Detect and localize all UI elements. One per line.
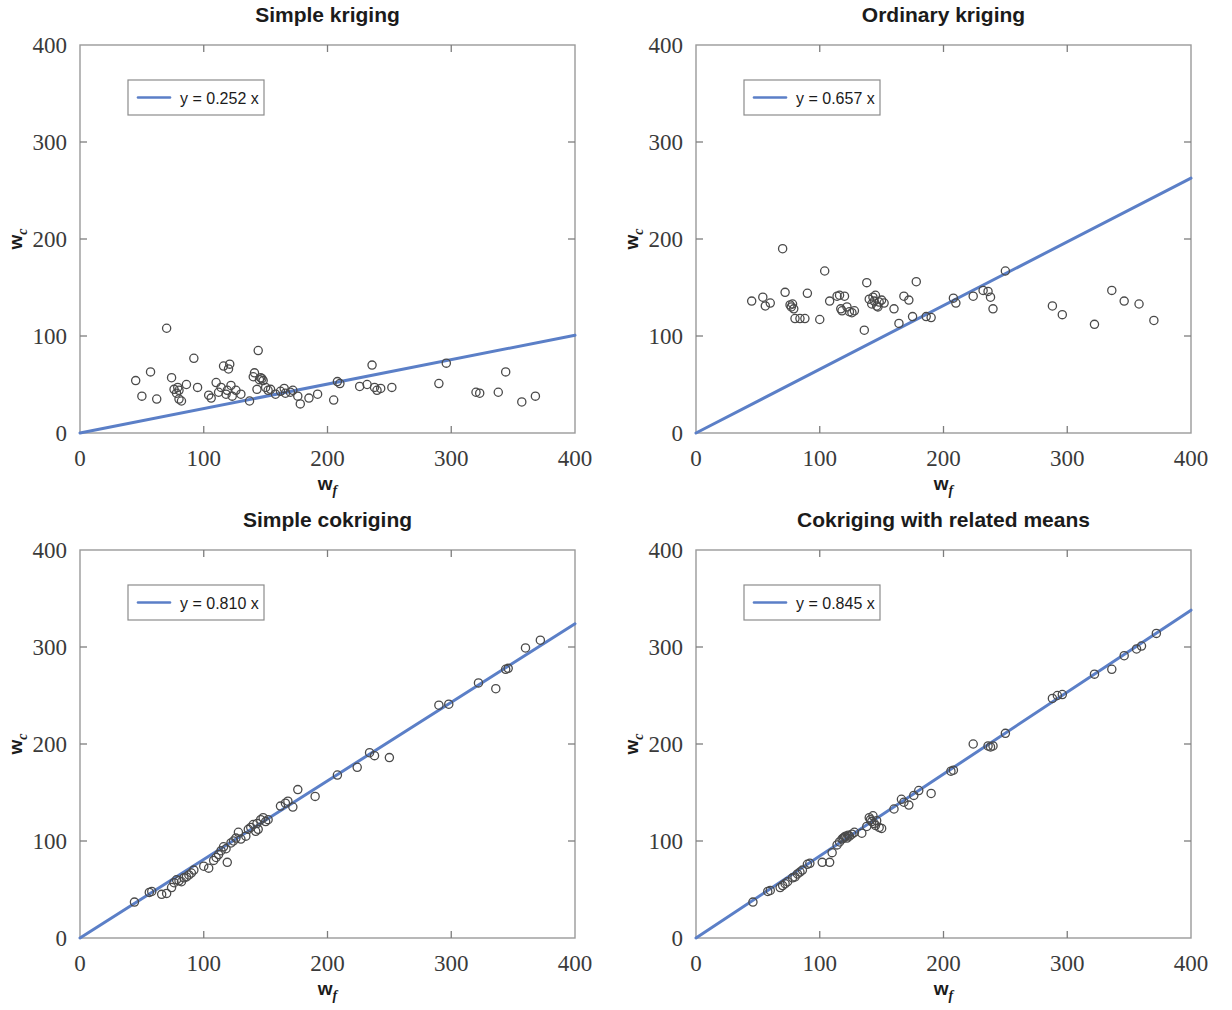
x-tick-label: 0 [74,951,86,976]
fit-line [80,624,575,938]
data-point [182,380,190,388]
y-tick-label: 300 [649,635,684,660]
data-point [177,397,185,405]
scatter-series [130,636,544,906]
data-point [193,383,201,391]
y-tick-label: 0 [56,926,68,951]
x-axis-tick-labels: 0100200300400 [74,951,592,976]
data-point [163,324,171,332]
y-tick-label: 100 [649,829,684,854]
data-point [311,792,319,800]
x-tick-label: 400 [558,446,593,471]
data-point [518,398,526,406]
panel-ordinary-kriging: Ordinary kriging010020030040001002003004… [616,0,1232,505]
data-point [305,394,313,402]
data-point [294,785,302,793]
data-point [908,313,916,321]
data-point [826,297,834,305]
data-point [969,292,977,300]
data-point [912,278,920,286]
data-point [828,849,836,857]
panel-title: Simple kriging [255,3,400,26]
x-axis-tick-labels: 0100200300400 [690,951,1208,976]
y-tick-label: 0 [672,926,684,951]
y-tick-label: 100 [649,324,684,349]
data-point [1108,286,1116,294]
fit-line [696,178,1191,433]
data-point [153,395,161,403]
data-point [759,293,767,301]
data-point [863,279,871,287]
y-tick-label: 400 [649,538,684,563]
data-point [803,289,811,297]
legend: y = 0.252 x [128,80,264,115]
data-point [1048,302,1056,310]
data-point [388,383,396,391]
legend-label: y = 0.252 x [180,90,259,107]
data-point [821,267,829,275]
data-point [860,326,868,334]
scatter-series [748,245,1158,335]
figure-container: Simple kriging01002003004000100200300400… [0,0,1232,1010]
data-point [969,740,977,748]
y-tick-label: 400 [33,538,68,563]
x-tick-label: 100 [187,951,222,976]
data-point [1120,297,1128,305]
x-tick-label: 400 [1174,951,1209,976]
data-point [435,379,443,387]
x-tick-label: 200 [926,446,961,471]
data-point [294,392,302,400]
x-tick-label: 100 [187,446,222,471]
x-tick-label: 200 [310,951,345,976]
data-point [200,862,208,870]
x-tick-label: 0 [74,446,86,471]
data-point [223,858,231,866]
legend: y = 0.810 x [128,585,264,620]
y-tick-label: 100 [33,829,68,854]
x-axis-tick-labels: 0100200300400 [690,446,1208,471]
data-point [816,315,824,323]
x-tick-label: 200 [310,446,345,471]
y-tick-label: 0 [56,421,68,446]
data-point [205,864,213,872]
y-tick-label: 200 [33,732,68,757]
y-tick-label: 400 [649,33,684,58]
x-tick-label: 400 [558,951,593,976]
panel-simple-kriging: Simple kriging01002003004000100200300400… [0,0,616,505]
data-point [1108,665,1116,673]
data-point [927,789,935,797]
data-point [132,377,140,385]
y-tick-label: 300 [33,635,68,660]
data-point [167,374,175,382]
data-point [779,245,787,253]
x-tick-label: 0 [690,951,702,976]
x-axis-tick-labels: 0100200300400 [74,446,592,471]
data-point [521,644,529,652]
panel-title: Cokriging with related means [797,508,1090,531]
data-point [353,763,361,771]
y-axis-title: wc [5,228,30,251]
x-axis-title: wf [317,978,339,1003]
y-tick-label: 100 [33,324,68,349]
legend: y = 0.845 x [744,585,880,620]
x-tick-label: 300 [1050,446,1085,471]
data-point [435,701,443,709]
data-point [138,392,146,400]
data-point [748,297,756,305]
data-point [167,883,175,891]
data-point [385,753,393,761]
y-tick-label: 200 [649,732,684,757]
data-point [850,307,858,315]
y-tick-label: 0 [672,421,684,446]
y-tick-label: 200 [649,227,684,252]
data-point [1058,311,1066,319]
panel-title: Simple cokriging [243,508,412,531]
legend-label: y = 0.810 x [180,595,259,612]
y-axis-tick-labels: 0100200300400 [649,33,684,446]
data-point [890,305,898,313]
y-axis-title: wc [621,733,646,756]
x-tick-label: 400 [1174,446,1209,471]
data-point [801,314,809,322]
x-tick-label: 300 [1050,951,1085,976]
data-point [989,305,997,313]
